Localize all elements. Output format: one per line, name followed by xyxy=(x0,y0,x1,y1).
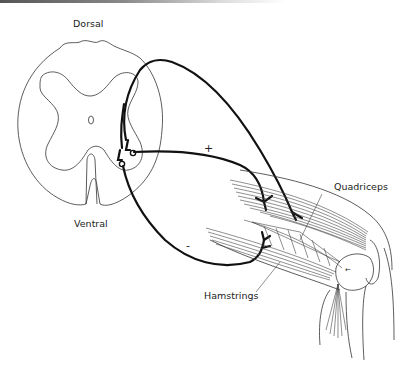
dorsal-label: Dorsal xyxy=(73,18,103,29)
afferent-terminal-1 xyxy=(126,140,130,150)
spinal-cord-section xyxy=(18,41,163,206)
femur-condyle xyxy=(336,254,374,290)
grey-matter xyxy=(40,72,142,170)
motor-nerve-quadriceps xyxy=(134,151,264,202)
spinal-cord-outline xyxy=(18,41,163,206)
hamstrings-leader xyxy=(256,262,280,292)
fibula xyxy=(346,292,352,358)
patella xyxy=(366,240,380,284)
ventral-label: Ventral xyxy=(74,218,108,229)
excitatory-sign: + xyxy=(204,142,213,155)
stretch-arrow: ← xyxy=(345,266,351,274)
hamstrings-label: Hamstrings xyxy=(204,290,258,301)
tibia xyxy=(363,286,366,360)
hamstrings-muscle xyxy=(206,220,342,280)
central-canal xyxy=(89,116,94,124)
afferent-terminal-2 xyxy=(118,150,122,160)
quadriceps-label: Quadriceps xyxy=(334,181,388,192)
quadriceps-leader xyxy=(300,194,322,240)
shin-outline-back xyxy=(319,290,330,345)
afferent-nerve xyxy=(124,60,292,212)
calf-tendons xyxy=(326,284,346,338)
inhibitory-sign: - xyxy=(186,239,190,252)
reflex-diagram: Dorsal Ventral + - xyxy=(0,0,408,377)
shin-outline-front xyxy=(384,248,394,340)
